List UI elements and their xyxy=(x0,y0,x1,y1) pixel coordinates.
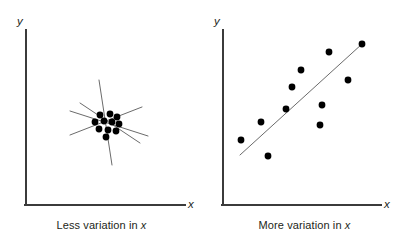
caption-variable: x xyxy=(141,219,147,231)
data-point xyxy=(114,114,121,121)
data-point xyxy=(265,153,272,160)
x-axis-label: x xyxy=(384,199,390,211)
data-points-group xyxy=(92,111,123,141)
data-point xyxy=(101,118,108,125)
data-point xyxy=(116,121,123,128)
y-axis-label: y xyxy=(17,16,23,28)
data-point xyxy=(317,122,324,129)
regression-line xyxy=(240,44,362,155)
data-point xyxy=(283,106,290,113)
x-axis-label: x xyxy=(188,199,194,211)
data-point xyxy=(359,41,366,48)
panel-caption: Less variation in x xyxy=(0,218,203,232)
data-point xyxy=(97,112,104,119)
caption-text: Less variation in xyxy=(57,219,141,231)
scatter-plot-less-variation xyxy=(0,0,203,215)
caption-text: More variation in xyxy=(259,219,345,231)
data-point xyxy=(319,102,326,109)
figure-root: y x Less variation in x y x More variati… xyxy=(0,0,406,247)
data-point xyxy=(96,126,103,133)
panel-less-variation: y x Less variation in x xyxy=(0,0,203,247)
data-point xyxy=(258,119,265,126)
data-point xyxy=(103,134,110,141)
axes-more-variation xyxy=(222,30,381,205)
data-point xyxy=(238,137,245,144)
data-point xyxy=(107,111,114,118)
data-point xyxy=(105,127,112,134)
data-point xyxy=(345,77,352,84)
trend-line-group xyxy=(240,44,362,155)
data-point xyxy=(289,84,296,91)
data-point xyxy=(113,128,120,135)
data-point xyxy=(298,67,305,74)
data-point xyxy=(109,119,116,126)
caption-variable: x xyxy=(345,219,351,231)
scatter-plot-more-variation xyxy=(203,0,406,215)
y-axis-label: y xyxy=(214,16,220,28)
data-point xyxy=(92,119,99,126)
panel-caption: More variation in x xyxy=(203,218,406,232)
data-point xyxy=(326,49,333,56)
panel-more-variation: y x More variation in x xyxy=(203,0,406,247)
